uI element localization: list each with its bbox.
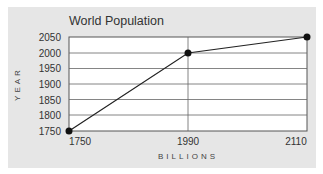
data-point — [66, 128, 73, 135]
data-point — [304, 34, 311, 41]
plot-area — [0, 0, 323, 174]
data-point — [185, 50, 192, 57]
